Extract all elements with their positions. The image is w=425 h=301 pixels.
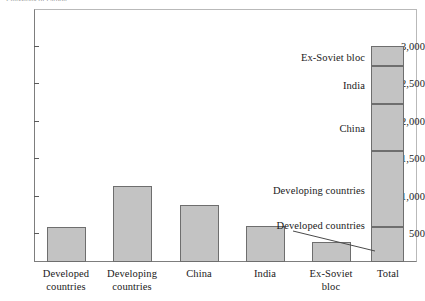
bar-developed-countries — [47, 227, 86, 262]
ytick-mark-1500 — [34, 158, 39, 159]
total-segment-china — [371, 104, 404, 151]
xtick-label-total: Total — [353, 268, 423, 281]
total-segment-india — [371, 66, 404, 104]
bar-developing-countries — [113, 186, 152, 262]
bar-china — [180, 205, 219, 262]
annotation-developing-countries: Developing countries — [273, 185, 365, 196]
ytick-mark-3000 — [34, 46, 39, 47]
bar-india — [246, 226, 285, 262]
ytick-mark-500 — [34, 233, 39, 234]
chart-figure: Emissions of carbon 3,000 2,500 2,000 1,… — [0, 0, 425, 301]
ytick-mark-2500 — [34, 83, 39, 84]
annotation-india: India — [343, 80, 365, 91]
annotation-ex-soviet-bloc: Ex-Soviet bloc — [301, 52, 365, 63]
ytick-mark-1000 — [34, 196, 39, 197]
total-segment-ex-soviet — [371, 46, 404, 66]
ytick-mark-2000 — [34, 121, 39, 122]
annotation-leader-line — [292, 228, 384, 254]
total-segment-developing — [371, 151, 404, 227]
annotation-china: China — [339, 123, 365, 134]
figure-title: Emissions of carbon — [6, 0, 67, 1]
